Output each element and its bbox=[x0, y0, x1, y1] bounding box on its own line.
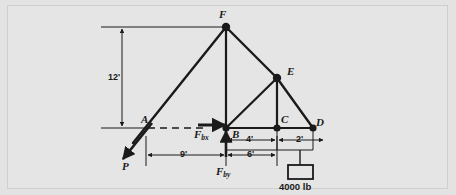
dimension-label-12ft: 12' bbox=[108, 73, 120, 82]
force-label-Fbx: Fbx bbox=[194, 129, 209, 140]
joint-B bbox=[222, 124, 229, 131]
member-B-E bbox=[226, 78, 277, 128]
node-label-B: B bbox=[232, 129, 239, 140]
dimension-label-2ft: 2' bbox=[296, 135, 303, 144]
dimension-label-9ft: 9' bbox=[180, 150, 187, 159]
member-F-E bbox=[226, 27, 277, 78]
node-label-C: C bbox=[281, 114, 288, 125]
joint-F bbox=[222, 23, 230, 31]
dimension-label-4ft: 4' bbox=[246, 135, 253, 144]
figure-canvas: F E A B C D P Fbx Fby 12' 9' 6' 4' 2' 40… bbox=[0, 0, 456, 195]
node-label-D: D bbox=[316, 117, 324, 128]
force-label-Fby-sub: by bbox=[223, 170, 230, 179]
force-label-P: P bbox=[122, 161, 129, 172]
load-block bbox=[288, 165, 313, 179]
node-label-A: A bbox=[141, 114, 148, 125]
node-label-E: E bbox=[287, 66, 294, 77]
joint-E bbox=[273, 74, 281, 82]
node-label-F: F bbox=[219, 9, 226, 20]
force-label-Fbx-sub: bx bbox=[201, 133, 209, 142]
force-label-Fby: Fby bbox=[216, 166, 230, 177]
dimension-label-6ft: 6' bbox=[247, 150, 254, 159]
load-label: 4000 lb bbox=[279, 182, 311, 192]
joint-C bbox=[273, 124, 280, 131]
